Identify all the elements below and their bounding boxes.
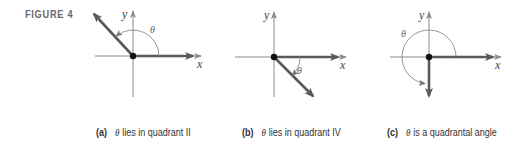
caption-text: lies in quadrant II [122, 127, 191, 138]
x-axis-label: x [196, 57, 203, 71]
panel-b-diagram: x y θ [235, 8, 346, 97]
origin-dot [130, 53, 136, 59]
x-axis-label: x [339, 58, 346, 72]
caption-tag: (b) [242, 127, 254, 138]
caption-text: lies in quadrant IV [269, 127, 341, 138]
panel-c-diagram: x y θ [390, 8, 501, 97]
theta-label: θ [150, 24, 155, 35]
y-axis-label: y [418, 8, 425, 22]
caption-c: (c)θis a quadrantal angle [387, 127, 497, 138]
caption-text: is a quadrantal angle [413, 127, 497, 138]
y-axis-label: y [121, 7, 128, 21]
caption-tag: (a) [96, 127, 107, 138]
theta-symbol: θ [115, 127, 119, 138]
caption-a: (a)θlies in quadrant II [96, 127, 191, 138]
origin-dot [271, 54, 277, 60]
terminal-side [274, 57, 313, 96]
y-axis-label: y [263, 8, 270, 22]
theta-label: θ [297, 65, 302, 76]
theta-symbol: θ [406, 127, 410, 138]
theta-label: θ [401, 28, 406, 39]
x-axis-label: x [494, 58, 501, 72]
caption-tag: (c) [387, 127, 398, 138]
origin-dot [426, 54, 432, 60]
caption-b: (b)θlies in quadrant IV [242, 127, 341, 138]
theta-symbol: θ [262, 127, 266, 138]
panel-a-diagram: x y θ [94, 7, 203, 97]
